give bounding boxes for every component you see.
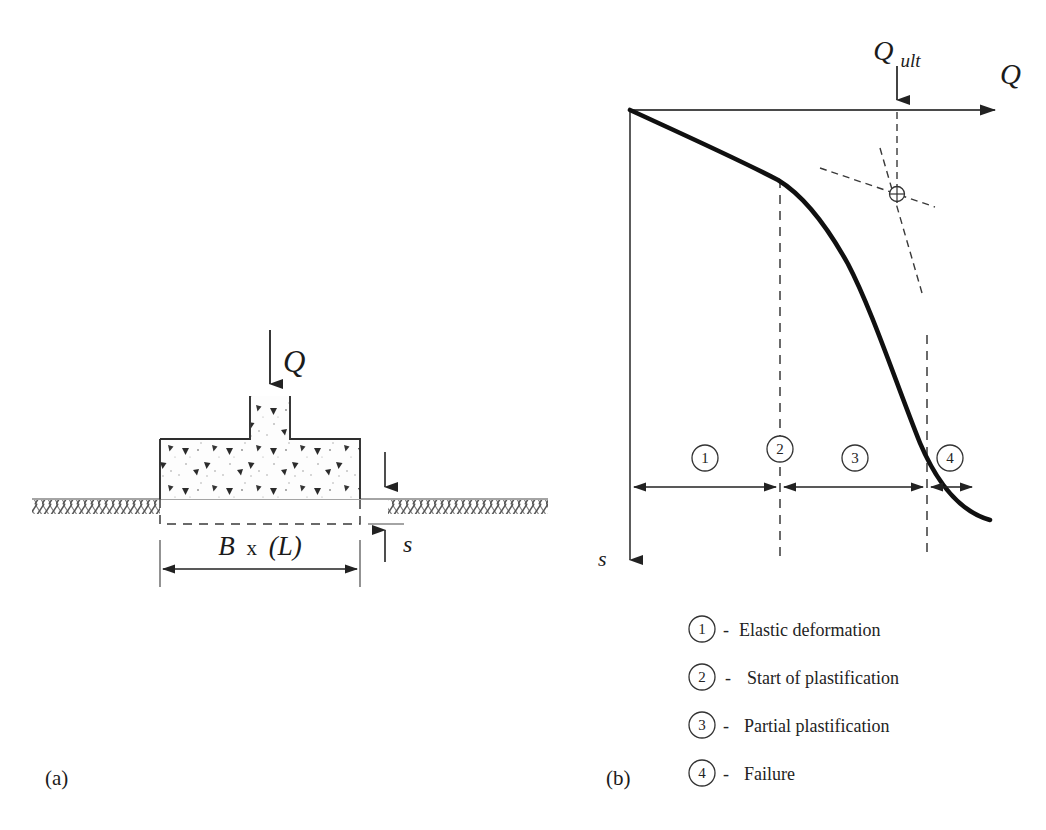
load-label-Q: Q xyxy=(283,344,305,379)
zone-marker-3-label: 3 xyxy=(851,450,859,466)
zone-marker-2-label: 2 xyxy=(776,441,784,457)
legend-dash-4: - xyxy=(723,764,729,784)
tangent-intersection-marker xyxy=(890,187,905,202)
caption-panel-b: (b) xyxy=(606,766,631,790)
zone-marker-1: 1 xyxy=(692,445,718,471)
width-label-L: (L) xyxy=(269,531,302,561)
legend-text-4: Failure xyxy=(744,764,795,784)
qult-label-base: Q xyxy=(873,35,893,66)
legend-dash-2: - xyxy=(725,668,731,688)
legend-text-1: Elastic deformation xyxy=(739,620,880,640)
legend-marker-3-label: 3 xyxy=(698,717,706,733)
legend-text-2: Start of plastification xyxy=(747,668,899,688)
zone-marker-4: 4 xyxy=(937,445,963,471)
legend-text-3: Partial plastification xyxy=(744,716,889,736)
legend-dash-3: - xyxy=(723,716,729,736)
zone-marker-4-label: 4 xyxy=(946,450,954,466)
zone-marker-2: 2 xyxy=(767,436,793,462)
canvas-background xyxy=(0,0,1046,830)
legend-marker-1-label: 1 xyxy=(698,621,706,637)
legend-dash-1: - xyxy=(723,620,729,640)
zone-marker-3: 3 xyxy=(842,445,868,471)
ground-hatch-left xyxy=(32,500,160,514)
caption-panel-a: (a) xyxy=(45,766,68,790)
width-label-times: x xyxy=(247,536,258,560)
qult-label-subscript: ult xyxy=(901,50,922,71)
legend-marker-4-label: 4 xyxy=(698,765,706,781)
figure-bearing-capacity: Q s B x (L) (a) Q s Q ult xyxy=(0,0,1046,830)
x-axis-label-Q: Q xyxy=(1000,58,1021,90)
ground-hatch-right xyxy=(388,500,548,514)
width-label-B: B xyxy=(218,531,235,561)
width-label-B-x-L: B x (L) xyxy=(218,531,302,561)
legend-marker-2-label: 2 xyxy=(698,669,706,685)
settlement-label-s: s xyxy=(403,531,412,557)
y-axis-label-s: s xyxy=(598,546,607,571)
zone-marker-1-label: 1 xyxy=(701,450,709,466)
